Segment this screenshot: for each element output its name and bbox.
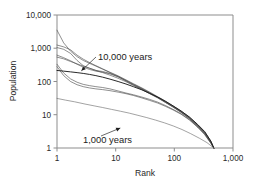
x-axis-ticks (57, 148, 233, 152)
series-line (57, 48, 214, 148)
annotation-1000-years-label: 1,000 years (83, 134, 132, 145)
x-tick-label-10: 10 (111, 154, 121, 163)
series-line (57, 55, 214, 148)
y-tick-label-10: 10 (42, 111, 52, 120)
annotation-10000-years: 10,000 years (81, 51, 152, 71)
data-curves (57, 30, 214, 148)
x-axis-title: Rank (135, 168, 156, 178)
plot-frame (57, 15, 233, 148)
series-line (57, 98, 214, 148)
y-axis-title: Population (8, 60, 18, 101)
annotation-1000-years: 1,000 years (83, 128, 132, 145)
x-tick-label-100: 100 (167, 154, 181, 163)
annotation-10000-years-label: 10,000 years (98, 51, 153, 62)
y-tick-label-1000: 1,000 (31, 44, 52, 53)
series-line (57, 64, 214, 148)
x-tick-label-1: 1 (55, 154, 60, 163)
series-line (57, 70, 214, 148)
series-line (57, 57, 214, 148)
x-tick-label-1000: 1,000 (223, 154, 244, 163)
chart-canvas: 10,000 1,000 100 10 1 1 10 100 1,000 Ran… (0, 0, 257, 182)
rank-size-log-log-chart: 10,000 1,000 100 10 1 1 10 100 1,000 Ran… (0, 0, 257, 182)
y-tick-label-10000: 10,000 (26, 11, 51, 20)
y-tick-label-1: 1 (46, 144, 51, 153)
y-axis-ticks (54, 15, 58, 148)
series-line (57, 67, 214, 148)
series-line (57, 30, 214, 148)
y-tick-label-100: 100 (37, 78, 51, 87)
